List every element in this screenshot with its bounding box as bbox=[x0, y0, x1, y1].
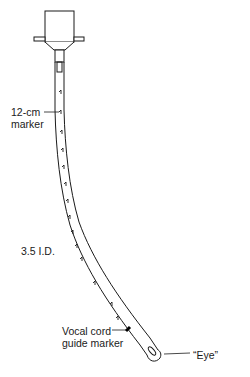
label-vocal-line2: guide marker bbox=[62, 337, 123, 349]
label-12cm-line1: 12-cm bbox=[11, 106, 44, 118]
label-vocal-line1: Vocal cord bbox=[62, 325, 123, 337]
label-vocal-cord-marker: Vocal cord guide marker bbox=[62, 325, 123, 349]
label-inner-diameter: 3.5 I.D. bbox=[21, 245, 55, 257]
connector-stem bbox=[55, 50, 64, 62]
connector-wing-left bbox=[34, 37, 45, 41]
endotracheal-tube-diagram bbox=[0, 0, 250, 377]
depth-markers bbox=[59, 90, 118, 320]
connector-body bbox=[45, 11, 74, 42]
tube-right-wall bbox=[64, 62, 158, 350]
tube-left-wall bbox=[55, 62, 147, 355]
leader-eye bbox=[164, 353, 190, 354]
label-12cm-marker: 12-cm marker bbox=[11, 106, 44, 130]
tube-lumen-top bbox=[57, 62, 62, 72]
label-12cm-line2: marker bbox=[11, 118, 44, 130]
murphy-eye bbox=[147, 346, 157, 356]
connector-taper bbox=[45, 42, 74, 50]
label-eye: “Eye” bbox=[193, 349, 218, 361]
connector-wing-right bbox=[74, 37, 84, 41]
